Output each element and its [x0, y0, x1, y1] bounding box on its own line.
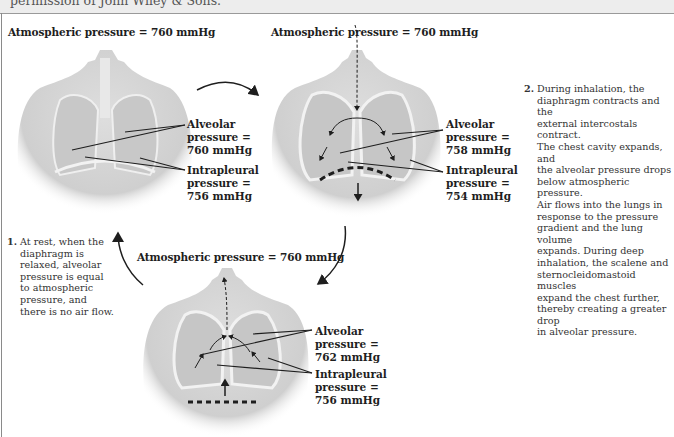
torso-exhalation — [143, 268, 312, 437]
description-line: to atmospheric — [20, 282, 130, 294]
intrapleural-value: 756 mmHg — [315, 394, 387, 407]
step-number: 2. — [524, 83, 534, 95]
intrapleural-label-inhalation: Intrapleural pressure = 754 mmHg — [446, 164, 518, 203]
description-line: there is no air flow. — [20, 306, 130, 318]
description-line: inhalation, the scalene and — [537, 257, 674, 269]
alveolar-title: Alveolar — [187, 118, 252, 131]
arrow-rest-to-inhale — [197, 82, 258, 95]
description-line: relaxed, alveolar — [20, 259, 130, 271]
description-line: expand the chest further, — [537, 292, 674, 304]
description-line: pressure, and — [20, 294, 130, 306]
description-line: the alveolar pressure drops — [537, 164, 674, 176]
alveolar-value: 758 mmHg — [446, 144, 511, 157]
alveolar-label-rest: Alveolar pressure = 760 mmHg — [187, 118, 252, 157]
intrapleural-title: Intrapleural — [315, 368, 387, 381]
intrapleural-value: 756 mmHg — [187, 190, 259, 203]
atmospheric-label-exhalation: Atmospheric pressure = 760 mmHg — [137, 251, 344, 263]
description-line: gradient and the lung volume — [537, 222, 674, 245]
intrapleural-label-rest: Intrapleural pressure = 756 mmHg — [187, 164, 259, 203]
description-line: response to the pressure — [537, 211, 674, 223]
intrapleural-title: Intrapleural — [446, 164, 518, 177]
description-line: The chest cavity expands, and — [537, 141, 674, 164]
atmospheric-label-rest: Atmospheric pressure = 760 mmHg — [8, 26, 215, 38]
description-line: pressure is equal — [20, 271, 130, 283]
description-line: external intercostals contract. — [537, 118, 674, 141]
description-line: diaphragm contracts and the — [537, 95, 674, 118]
description-line: At rest, when the — [20, 236, 130, 248]
description-inhalation: 2. During inhalation, the diaphragm cont… — [537, 83, 674, 338]
intrapleural-eq: pressure = — [446, 177, 518, 190]
alveolar-label-inhalation: Alveolar pressure = 758 mmHg — [446, 118, 511, 157]
intrapleural-label-exhalation: Intrapleural pressure = 756 mmHg — [315, 368, 387, 407]
description-line: expands. During deep — [537, 245, 674, 257]
alveolar-label-exhalation: Alveolar pressure = 762 mmHg — [315, 325, 380, 364]
intrapleural-value: 754 mmHg — [446, 190, 518, 203]
intrapleural-title: Intrapleural — [187, 164, 259, 177]
alveolar-eq: pressure = — [446, 131, 511, 144]
description-line: During inhalation, the — [537, 83, 674, 95]
description-line: thereby creating a greater drop — [537, 303, 674, 326]
torso-rest — [18, 50, 192, 214]
description-line: sternocleidomastoid muscles — [537, 269, 674, 292]
alveolar-title: Alveolar — [446, 118, 511, 131]
description-line: in alveolar pressure. — [537, 326, 674, 338]
description-line: below atmospheric pressure. — [537, 176, 674, 199]
alveolar-eq: pressure = — [315, 338, 380, 351]
alveolar-value: 760 mmHg — [187, 144, 252, 157]
step-number: 1. — [7, 236, 17, 248]
description-line: diaphragm is — [20, 248, 130, 260]
atmospheric-label-inhalation: Atmospheric pressure = 760 mmHg — [271, 26, 478, 38]
alveolar-value: 762 mmHg — [315, 351, 380, 364]
alveolar-eq: pressure = — [187, 131, 252, 144]
alveolar-title: Alveolar — [315, 325, 380, 338]
description-rest: 1. At rest, when the diaphragm is relaxe… — [20, 236, 130, 317]
intrapleural-eq: pressure = — [315, 381, 387, 394]
torso-inhalation — [272, 25, 443, 218]
intrapleural-eq: pressure = — [187, 177, 259, 190]
description-line: Air flows into the lungs in — [537, 199, 674, 211]
